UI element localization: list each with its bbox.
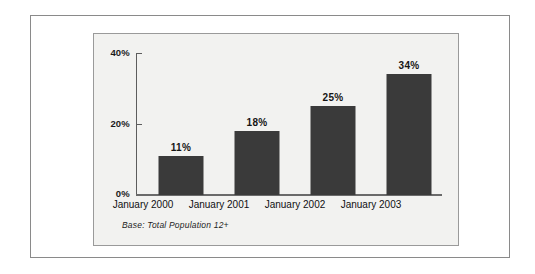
y-axis-label-40: 40%: [94, 47, 130, 58]
bar-slot: 34%: [371, 53, 447, 195]
page-canvas: 40% 20% 0% 11% 18% 25%: [0, 0, 535, 274]
bar-slot: 25%: [295, 53, 371, 195]
bar-value-label: 34%: [399, 60, 420, 71]
bar-january-2000[interactable]: [159, 156, 204, 195]
bar-january-2001[interactable]: [235, 131, 280, 195]
plot-area: 40% 20% 0% 11% 18% 25%: [94, 34, 458, 245]
bar-slot: 18%: [219, 53, 295, 195]
bar-january-2003[interactable]: [387, 74, 432, 195]
bar-value-label: 18%: [247, 117, 268, 128]
bar-january-2002[interactable]: [311, 106, 356, 195]
x-axis-category-label: January 2003: [326, 199, 416, 210]
bar-group: 11% 18% 25% 34%: [136, 53, 442, 195]
chart-panel: 40% 20% 0% 11% 18% 25%: [93, 33, 459, 246]
chart-footnote: Base: Total Population 12+: [122, 220, 229, 230]
bar-value-label: 25%: [323, 92, 344, 103]
bar-slot: 11%: [143, 53, 219, 195]
y-axis-label-0: 0%: [94, 188, 130, 199]
bar-value-label: 11%: [171, 142, 191, 153]
outer-frame: 40% 20% 0% 11% 18% 25%: [30, 15, 510, 258]
y-axis-label-20: 20%: [94, 118, 130, 129]
